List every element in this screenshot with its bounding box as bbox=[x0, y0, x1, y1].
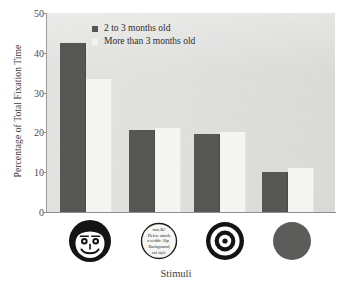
bar-group-bullseye bbox=[194, 13, 254, 212]
smiling-face-icon bbox=[68, 219, 112, 263]
bar-bullseye-more3months bbox=[220, 132, 246, 212]
svg-text:Delete attach: Delete attach bbox=[148, 233, 171, 238]
x-axis-title: Stimuli bbox=[0, 268, 352, 279]
legend: 2 to 3 months old More than 3 months old bbox=[92, 22, 195, 48]
y-tick-label: 10 bbox=[4, 167, 44, 178]
y-axis-ticks: 50 40 30 20 10 0 bbox=[0, 0, 44, 296]
legend-swatch-light-icon bbox=[92, 39, 98, 45]
legend-label: More than 3 months old bbox=[104, 35, 195, 48]
bar-face-2to3months bbox=[60, 43, 86, 212]
bar-solid-disc-more3months bbox=[288, 168, 314, 212]
figure-bar-chart: Percentage of Total Fixation Time 50 40 … bbox=[0, 0, 352, 296]
bar-face-more3months bbox=[86, 79, 112, 212]
y-tick-label: 20 bbox=[4, 127, 44, 138]
stimulus-text-circle: rma &? Delete attach n width: 10p Backgr… bbox=[136, 218, 182, 264]
y-tick-label: 40 bbox=[4, 47, 44, 58]
bar-group-solid-disc bbox=[262, 13, 322, 212]
legend-label: 2 to 3 months old bbox=[104, 22, 171, 35]
y-axis-line bbox=[46, 13, 47, 213]
y-tick-label: 30 bbox=[4, 87, 44, 98]
bullseye-target-icon bbox=[203, 219, 247, 263]
bar-text-circle-more3months bbox=[155, 128, 181, 212]
stimulus-smiling-face bbox=[67, 218, 113, 264]
bar-bullseye-2to3months bbox=[194, 134, 220, 212]
legend-item-more3months: More than 3 months old bbox=[92, 35, 195, 48]
stimulus-solid-disc bbox=[269, 218, 315, 264]
svg-text:Background: Background bbox=[148, 244, 170, 249]
y-tick-label: 0 bbox=[4, 207, 44, 218]
y-tick-label: 50 bbox=[4, 8, 44, 19]
legend-swatch-dark-icon bbox=[92, 26, 98, 32]
x-axis-stimuli: rma &? Delete attach n width: 10p Backgr… bbox=[47, 218, 335, 270]
x-axis-line bbox=[46, 212, 336, 213]
bar-text-circle-2to3months bbox=[129, 130, 155, 212]
svg-text:n width: 10p: n width: 10p bbox=[147, 238, 169, 243]
svg-text:rma &?: rma &? bbox=[152, 227, 165, 232]
solid-disc-icon bbox=[270, 219, 314, 263]
svg-text:cal style: cal style bbox=[152, 250, 166, 255]
bar-solid-disc-2to3months bbox=[262, 172, 288, 212]
stimulus-bullseye bbox=[202, 218, 248, 264]
legend-item-2to3months: 2 to 3 months old bbox=[92, 22, 195, 35]
text-scramble-circle-icon: rma &? Delete attach n width: 10p Backgr… bbox=[137, 219, 181, 263]
